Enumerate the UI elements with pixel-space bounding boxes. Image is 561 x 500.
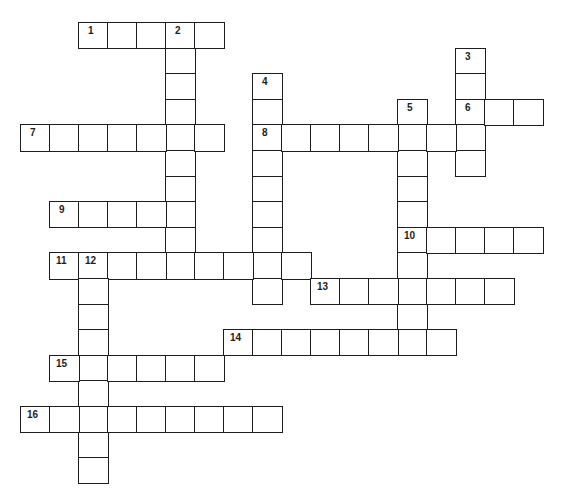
crossword-cell[interactable]: [339, 124, 370, 151]
crossword-cell[interactable]: [426, 278, 457, 305]
crossword-cell[interactable]: [368, 124, 399, 151]
crossword-cell[interactable]: [165, 73, 196, 100]
crossword-cell[interactable]: [426, 227, 457, 254]
crossword-cell[interactable]: 12: [78, 252, 109, 279]
crossword-cell[interactable]: 4: [252, 73, 283, 100]
crossword-cell[interactable]: [252, 99, 283, 126]
crossword-cell[interactable]: 3: [455, 48, 486, 75]
crossword-cell[interactable]: 2: [165, 22, 196, 49]
crossword-cell[interactable]: [397, 176, 428, 203]
crossword-cell[interactable]: [455, 227, 486, 254]
crossword-cell[interactable]: [165, 48, 196, 75]
crossword-cell[interactable]: [165, 227, 196, 254]
crossword-cell[interactable]: [136, 252, 167, 279]
crossword-cell[interactable]: [455, 150, 486, 177]
crossword-cell[interactable]: [136, 22, 167, 49]
crossword-cell[interactable]: 16: [20, 406, 51, 433]
crossword-cell[interactable]: [455, 278, 486, 305]
crossword-cell[interactable]: [136, 355, 167, 382]
crossword-cell[interactable]: [136, 124, 167, 151]
crossword-cell[interactable]: [165, 124, 196, 151]
crossword-cell[interactable]: [78, 304, 109, 331]
crossword-cell[interactable]: [310, 329, 341, 356]
crossword-cell[interactable]: [78, 432, 109, 459]
crossword-cell[interactable]: [397, 329, 428, 356]
crossword-cell[interactable]: 7: [20, 124, 51, 151]
crossword-cell[interactable]: 1: [78, 22, 109, 49]
crossword-cell[interactable]: [194, 406, 225, 433]
crossword-cell[interactable]: [107, 124, 138, 151]
crossword-cell[interactable]: [397, 252, 428, 279]
crossword-cell[interactable]: [165, 150, 196, 177]
crossword-cell[interactable]: [252, 201, 283, 228]
crossword-cell[interactable]: [368, 278, 399, 305]
crossword-cell[interactable]: 15: [49, 355, 80, 382]
crossword-cell[interactable]: [484, 99, 515, 126]
crossword-cell[interactable]: [107, 252, 138, 279]
crossword-cell[interactable]: [78, 355, 109, 382]
crossword-cell[interactable]: [136, 201, 167, 228]
crossword-cell[interactable]: [339, 278, 370, 305]
crossword-cell[interactable]: [281, 252, 312, 279]
crossword-cell[interactable]: 11: [49, 252, 80, 279]
crossword-cell[interactable]: [194, 252, 225, 279]
crossword-cell[interactable]: [397, 201, 428, 228]
crossword-cell[interactable]: [78, 278, 109, 305]
crossword-cell[interactable]: [397, 304, 428, 331]
crossword-cell[interactable]: [252, 252, 283, 279]
crossword-cell[interactable]: 14: [223, 329, 254, 356]
crossword-cell[interactable]: [194, 124, 225, 151]
crossword-cell[interactable]: [455, 73, 486, 100]
crossword-cell[interactable]: [194, 22, 225, 49]
crossword-cell[interactable]: 8: [252, 124, 283, 151]
crossword-cell[interactable]: [281, 329, 312, 356]
crossword-cell[interactable]: [252, 406, 283, 433]
crossword-cell[interactable]: [165, 406, 196, 433]
crossword-cell[interactable]: [194, 355, 225, 382]
crossword-cell[interactable]: [397, 150, 428, 177]
crossword-cell[interactable]: [165, 201, 196, 228]
crossword-cell[interactable]: [107, 355, 138, 382]
crossword-cell[interactable]: [339, 329, 370, 356]
crossword-cell[interactable]: [513, 99, 544, 126]
crossword-cell[interactable]: [484, 278, 515, 305]
crossword-cell[interactable]: [136, 406, 167, 433]
crossword-cell[interactable]: 9: [49, 201, 80, 228]
crossword-cell[interactable]: [78, 380, 109, 407]
crossword-cell[interactable]: [310, 124, 341, 151]
crossword-cell[interactable]: [426, 124, 457, 151]
crossword-cell[interactable]: [513, 227, 544, 254]
crossword-cell[interactable]: [107, 406, 138, 433]
crossword-cell[interactable]: [49, 406, 80, 433]
crossword-cell[interactable]: [223, 406, 254, 433]
crossword-cell[interactable]: [107, 22, 138, 49]
crossword-cell[interactable]: [78, 329, 109, 356]
crossword-cell[interactable]: [252, 176, 283, 203]
crossword-cell[interactable]: 10: [397, 227, 428, 254]
crossword-cell[interactable]: 13: [310, 278, 341, 305]
crossword-cell[interactable]: [165, 176, 196, 203]
crossword-cell[interactable]: [165, 99, 196, 126]
crossword-cell[interactable]: [78, 406, 109, 433]
crossword-cell[interactable]: [281, 124, 312, 151]
crossword-cell[interactable]: [397, 124, 428, 151]
crossword-cell[interactable]: [165, 355, 196, 382]
crossword-cell[interactable]: [455, 124, 486, 151]
crossword-cell[interactable]: [397, 278, 428, 305]
crossword-cell[interactable]: 6: [455, 99, 486, 126]
crossword-cell[interactable]: [368, 329, 399, 356]
crossword-cell[interactable]: [484, 227, 515, 254]
crossword-cell[interactable]: [78, 124, 109, 151]
crossword-cell[interactable]: [252, 278, 283, 305]
crossword-cell[interactable]: [252, 150, 283, 177]
crossword-cell[interactable]: [78, 457, 109, 484]
crossword-cell[interactable]: [223, 252, 254, 279]
crossword-cell[interactable]: [252, 329, 283, 356]
crossword-cell[interactable]: [107, 201, 138, 228]
crossword-cell[interactable]: [49, 124, 80, 151]
crossword-cell[interactable]: 5: [397, 99, 428, 126]
crossword-cell[interactable]: [252, 227, 283, 254]
crossword-cell[interactable]: [78, 201, 109, 228]
crossword-cell[interactable]: [426, 329, 457, 356]
crossword-cell[interactable]: [165, 252, 196, 279]
